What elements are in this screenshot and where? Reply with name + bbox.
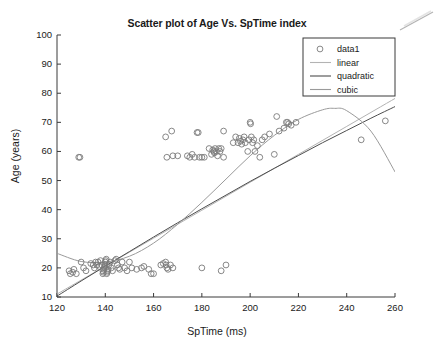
legend-label-quadratic: quadratic: [337, 71, 375, 81]
scatter-plot: data1linearquadraticcubic: [0, 0, 434, 347]
y-tick-label: 50: [26, 175, 52, 186]
x-tick-label: 240: [332, 302, 362, 313]
y-tick-label: 60: [26, 145, 52, 156]
x-tick-label: 120: [42, 302, 72, 313]
data-point: [218, 268, 224, 274]
data-point: [199, 265, 205, 271]
y-tick-label: 100: [26, 29, 52, 40]
legend-label-linear: linear: [337, 58, 359, 68]
data-point: [146, 266, 152, 272]
x-tick-label: 260: [380, 302, 410, 313]
data-point: [221, 128, 227, 134]
y-tick-label: 10: [26, 291, 52, 302]
data-point: [245, 149, 251, 155]
scan-artifact-icon: [400, 11, 433, 30]
data-point: [169, 128, 175, 134]
y-tick-label: 30: [26, 233, 52, 244]
x-tick-label: 200: [235, 302, 265, 313]
data-point: [271, 151, 277, 157]
data-point: [267, 131, 273, 137]
data-point: [73, 271, 79, 277]
data-point: [223, 262, 229, 268]
data-point: [233, 134, 239, 140]
x-tick-label: 160: [139, 302, 169, 313]
data-point: [274, 114, 280, 120]
data-point: [164, 154, 170, 160]
data-point: [221, 154, 227, 160]
data-point: [127, 259, 133, 265]
y-tick-label: 80: [26, 87, 52, 98]
data-point: [358, 137, 364, 143]
y-tick-label: 70: [26, 116, 52, 127]
figure-canvas: Scatter plot of Age Vs. SpTime index SpT…: [0, 0, 434, 347]
data-point: [382, 118, 388, 124]
x-tick-label: 180: [187, 302, 217, 313]
data-point: [163, 134, 169, 140]
legend-label-data1: data1: [337, 44, 360, 54]
y-tick-label: 20: [26, 262, 52, 273]
y-tick-label: 90: [26, 58, 52, 69]
data-point: [257, 154, 263, 160]
data-point: [254, 143, 260, 149]
data-point: [119, 259, 125, 265]
legend-label-cubic: cubic: [337, 85, 359, 95]
x-tick-label: 140: [90, 302, 120, 313]
x-tick-label: 220: [283, 302, 313, 313]
y-tick-label: 40: [26, 204, 52, 215]
legend[interactable]: data1linearquadraticcubic: [303, 38, 395, 96]
